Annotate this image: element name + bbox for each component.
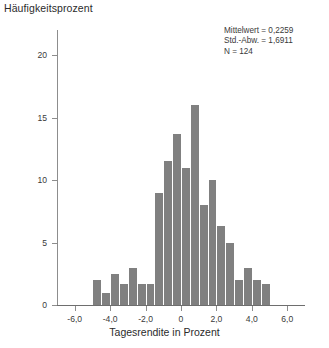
histogram-bar [146, 284, 155, 305]
x-tick-label: -2,0 [131, 314, 161, 324]
y-tick-label: 20 [17, 50, 47, 60]
histogram-bar [261, 284, 270, 305]
histogram-bar [137, 284, 146, 305]
x-tick-mark [75, 306, 76, 311]
x-tick-label: 0 [166, 314, 196, 324]
x-tick-label: 2,0 [201, 314, 231, 324]
x-tick-mark [110, 306, 111, 311]
histogram-bar [119, 284, 128, 305]
x-tick-mark [216, 306, 217, 311]
histogram-bar [163, 161, 172, 305]
histogram-bar [101, 293, 110, 306]
histogram-bar [128, 268, 137, 306]
histogram-bar [92, 280, 101, 305]
x-tick-label: -4,0 [95, 314, 125, 324]
histogram-bar [243, 268, 252, 306]
y-tick-mark [52, 55, 57, 56]
y-tick-mark [52, 305, 57, 306]
y-tick-label: 5 [17, 238, 47, 248]
histogram-bar [199, 205, 208, 305]
x-tick-label: 4,0 [237, 314, 267, 324]
bars-layer [57, 30, 305, 305]
plot-area: 05101520 -6,0-4,0-2,002,04,06,0 [57, 30, 305, 305]
y-tick-mark [52, 243, 57, 244]
histogram-bar [181, 168, 190, 306]
x-axis-title: Tagesrendite in Prozent [0, 326, 329, 338]
histogram-bar [110, 274, 119, 305]
x-tick-label: -6,0 [60, 314, 90, 324]
x-tick-mark [252, 306, 253, 311]
histogram-bar [190, 105, 199, 305]
x-tick-mark [146, 306, 147, 311]
histogram-bar [252, 280, 261, 305]
y-tick-label: 0 [17, 300, 47, 310]
y-tick-label: 15 [17, 113, 47, 123]
histogram-bar [234, 280, 243, 305]
x-tick-mark [287, 306, 288, 311]
x-tick-label: 6,0 [272, 314, 302, 324]
histogram-bar [208, 180, 217, 305]
histogram-bar [172, 134, 181, 305]
y-axis-title: Häufigkeitsprozent [4, 2, 93, 14]
x-tick-mark [181, 306, 182, 311]
histogram-bar [216, 226, 225, 305]
histogram-bar [225, 243, 234, 306]
y-tick-mark [52, 118, 57, 119]
y-tick-mark [52, 180, 57, 181]
y-tick-label: 10 [17, 175, 47, 185]
histogram-chart: Häufigkeitsprozent Mittelwert = 0,2259 S… [0, 0, 329, 348]
histogram-bar [154, 193, 163, 306]
